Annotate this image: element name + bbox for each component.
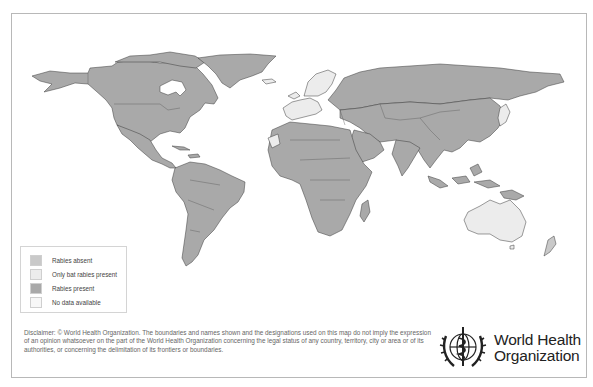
region-south-america (172, 162, 245, 266)
legend-item-no-data: No data available (30, 296, 101, 308)
legend-swatch-icon (30, 255, 42, 266)
legend-label: Rabies present (52, 285, 94, 292)
legend-label: Only bat rabies present (52, 271, 117, 278)
legend-swatch-icon (30, 297, 42, 308)
legend-item-rabies-present: Rabies present (30, 282, 94, 294)
legend-swatch-icon (30, 269, 42, 280)
region-scandinavia (304, 70, 336, 96)
legend-item-only-bat-rabies: Only bat rabies present (30, 268, 117, 280)
region-new-zealand (544, 236, 556, 256)
region-india (392, 140, 420, 176)
who-emblem-icon (438, 324, 488, 372)
who-logo: World Health Organization (438, 324, 581, 372)
legend-swatch-icon (30, 283, 42, 294)
region-australia (464, 200, 526, 242)
legend-label: Rabies absent (52, 257, 92, 264)
who-name-line2: Organization (494, 348, 581, 364)
legend-label: No data available (52, 299, 101, 306)
disclaimer-text: Disclaimer: © World Health Organization.… (24, 329, 434, 354)
legend-item-rabies-absent: Rabies absent (30, 254, 92, 266)
who-name-line1: World Health (494, 332, 581, 348)
region-europe-west (283, 98, 322, 120)
region-madagascar (360, 200, 370, 222)
map-legend: Rabies absent Only bat rabies present Ra… (20, 246, 127, 313)
who-name: World Health Organization (494, 332, 581, 364)
